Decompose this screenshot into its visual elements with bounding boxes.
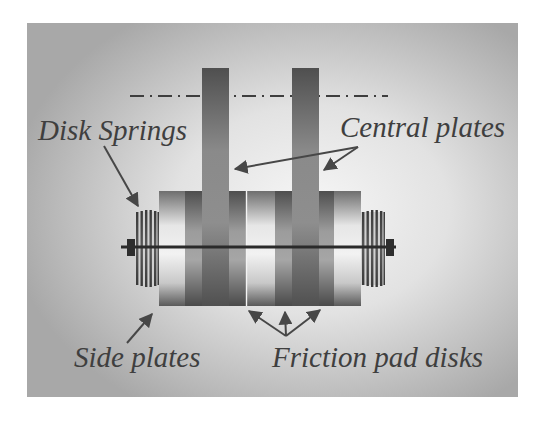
- nut-left: [127, 239, 135, 256]
- label-side-plates: Side plates: [74, 341, 200, 373]
- central-plate-2: [292, 68, 319, 306]
- label-disk-springs: Disk Springs: [37, 114, 187, 146]
- arrow-friction-pad-2: [285, 312, 286, 336]
- friction-damper-diagram: Disk Springs Central plates Side plates …: [0, 0, 536, 430]
- label-friction-pad-disks: Friction pad disks: [271, 341, 483, 373]
- nut-right: [386, 239, 394, 256]
- label-central-plates: Central plates: [340, 111, 505, 143]
- central-plate-1: [202, 68, 229, 306]
